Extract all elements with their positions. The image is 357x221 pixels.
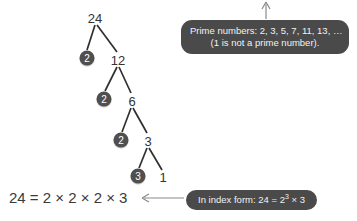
factorisation-equation: 24 = 2 × 2 × 2 × 3: [9, 189, 127, 207]
tree-node-1: 1: [159, 171, 166, 184]
prime-leaf-2-third: 2: [114, 133, 129, 148]
branch-12-to-6: [119, 67, 131, 93]
tree-node-12: 12: [111, 54, 125, 67]
branch-6-to-2: [122, 108, 131, 132]
callout-index-suffix: × 3: [289, 194, 305, 205]
prime-leaf-3: 3: [131, 169, 146, 184]
branch-3-to-3: [139, 148, 147, 168]
branch-24-to-2: [87, 25, 95, 50]
factor-tree-diagram: 24 12 6 3 1 2 2 2 3 Prime numbers: 2, 3,…: [0, 0, 357, 221]
callout-index-pointer-arrow: [142, 194, 184, 202]
tree-node-6: 6: [128, 95, 135, 108]
tree-node-3: 3: [144, 135, 151, 148]
tree-node-24: 24: [88, 12, 102, 25]
callout-prime-line-2: (1 is not a prime number).: [190, 37, 340, 49]
prime-leaf-2-first: 2: [80, 51, 95, 66]
branch-3-to-1: [149, 148, 162, 170]
callout-index-form: In index form: 24 = 23 × 3: [186, 190, 317, 210]
callout-prime-pointer-arrow: [262, 2, 270, 19]
prime-leaf-2-second: 2: [97, 92, 112, 107]
callout-prime-line-1: Prime numbers: 2, 3, 5, 7, 11, 13, …: [190, 25, 340, 37]
callout-index-prefix: In index form: 24 = 2: [198, 194, 285, 205]
branch-24-to-12: [97, 25, 117, 52]
callout-prime-numbers: Prime numbers: 2, 3, 5, 7, 11, 13, … (1 …: [181, 20, 349, 54]
branch-6-to-3: [133, 108, 147, 133]
branch-12-to-2: [105, 67, 117, 91]
